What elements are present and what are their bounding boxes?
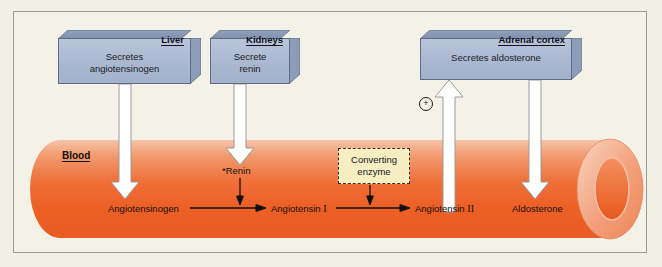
organ-desc-adrenal-cortex: Secretes aldosterone	[420, 52, 572, 64]
renin-label: *Renin	[222, 165, 251, 176]
blood-label: Blood	[62, 150, 90, 162]
organ-label-kidneys: Kidneys	[246, 34, 283, 46]
converting-enzyme-box: Converting enzyme	[338, 148, 410, 184]
arrow-kidneys-to-renin	[226, 84, 254, 165]
organ-desc-kidneys: Secrete renin	[210, 51, 290, 74]
angiotensinogen-label: Angiotensinogen	[108, 203, 179, 214]
organ-label-adrenal-cortex: Adrenal cortex	[498, 34, 565, 46]
angiotensin-2-label: Angiotensin II	[415, 203, 474, 214]
stimulation-plus-icon: +	[419, 97, 433, 111]
angiotensin-1-label: Angiotensin I	[271, 203, 327, 214]
organ-box-kidneys: Kidneys Secrete renin	[210, 30, 290, 84]
organ-box-adrenal-cortex: Adrenal cortex Secretes aldosterone	[420, 30, 572, 80]
box-side-face	[571, 38, 582, 80]
converting-enzyme-label: Converting enzyme	[339, 154, 409, 177]
angiotensin-2-name: Angiotensin	[415, 203, 465, 214]
box-side-face	[190, 38, 201, 84]
angiotensin-2-numeral: II	[467, 203, 474, 214]
angiotensin-1-numeral: I	[323, 203, 326, 214]
figure-canvas: Liver Secretes angiotensinogen Kidneys S…	[0, 0, 662, 267]
angiotensin-1-name: Angiotensin	[271, 203, 321, 214]
box-side-face	[289, 38, 300, 84]
organ-label-liver: Liver	[161, 34, 184, 46]
organ-desc-liver: Secretes angiotensinogen	[58, 51, 191, 74]
aldosterone-label: Aldosterone	[512, 203, 563, 214]
organ-box-liver: Liver Secretes angiotensinogen	[58, 30, 191, 84]
